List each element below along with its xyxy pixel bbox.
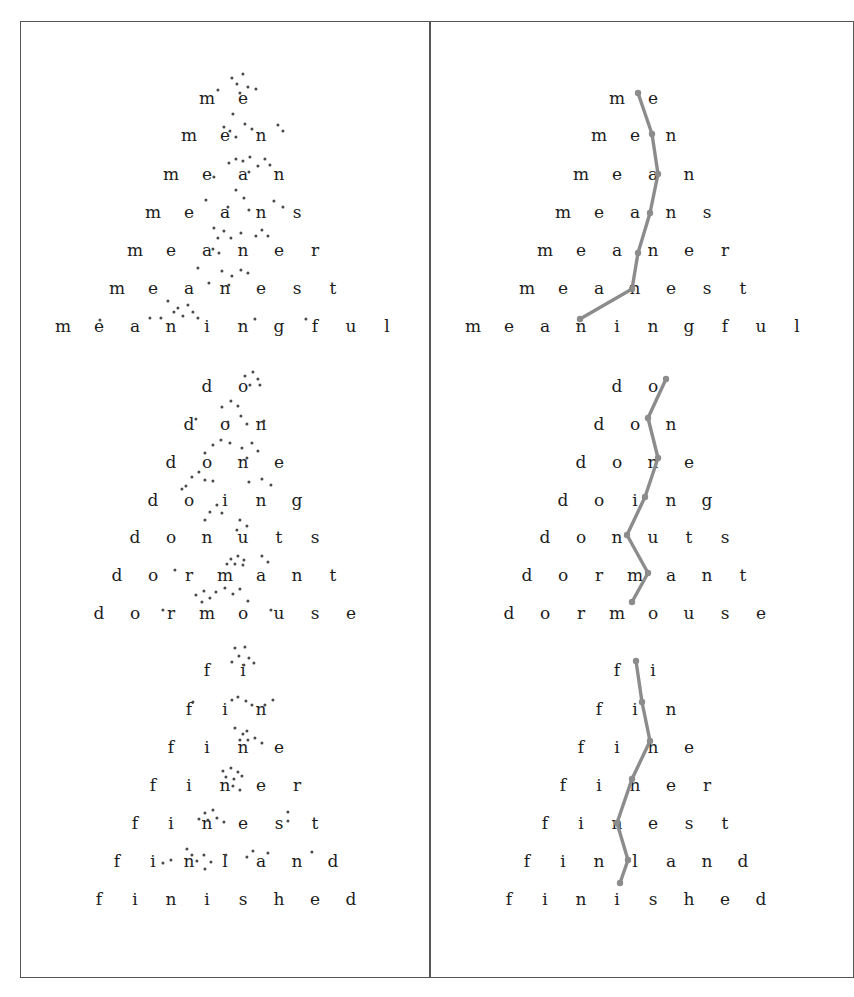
glyph: r (563, 605, 599, 622)
glyph: l (617, 853, 653, 870)
glyph: f (99, 853, 135, 870)
glyph: d (509, 567, 545, 584)
glyph: d (81, 605, 117, 622)
glyph: n (207, 280, 243, 297)
glyph: i (599, 891, 635, 908)
glyph: s (689, 204, 725, 221)
glyph: f (153, 739, 189, 756)
glyph: o (225, 378, 261, 395)
glyph: n (563, 318, 599, 335)
glyph: i (563, 815, 599, 832)
glyph: m (153, 166, 189, 183)
word-row-donuts-right: donuts (527, 529, 743, 546)
glyph: e (243, 777, 279, 794)
glyph: i (581, 777, 617, 794)
glyph: m (455, 318, 491, 335)
glyph: d (333, 891, 369, 908)
glyph: a (599, 242, 635, 259)
glyph: n (599, 529, 635, 546)
glyph: e (671, 454, 707, 471)
glyph: e (243, 280, 279, 297)
glyph: n (635, 454, 671, 471)
glyph: n (581, 853, 617, 870)
glyph: d (117, 529, 153, 546)
word-row-fi-right: fi (599, 662, 671, 679)
glyph: o (153, 529, 189, 546)
glyph: f (189, 662, 225, 679)
glyph: i (171, 777, 207, 794)
word-row-mean-right: mean (563, 166, 707, 183)
glyph: o (635, 378, 671, 395)
glyph: d (135, 492, 171, 509)
glyph: f (297, 318, 333, 335)
glyph: m (617, 567, 653, 584)
word-row-me-right: me (599, 90, 671, 107)
glyph: i (617, 492, 653, 509)
glyph: o (527, 605, 563, 622)
word-row-men-left: men (171, 127, 279, 144)
glyph: e (207, 127, 243, 144)
glyph: n (243, 204, 279, 221)
glyph: e (671, 739, 707, 756)
glyph: m (189, 90, 225, 107)
glyph: f (707, 318, 743, 335)
glyph: f (581, 701, 617, 718)
glyph: s (635, 891, 671, 908)
glyph: a (617, 204, 653, 221)
glyph: e (261, 739, 297, 756)
glyph: d (581, 416, 617, 433)
word-row-donuts-left: donuts (117, 529, 333, 546)
glyph: m (563, 166, 599, 183)
word-row-finer-right: finer (545, 777, 725, 794)
glyph: a (207, 204, 243, 221)
word-row-dormouse-left: dormouse (81, 605, 369, 622)
glyph: m (99, 280, 135, 297)
glyph: s (707, 529, 743, 546)
glyph: n (599, 815, 635, 832)
glyph: i (599, 739, 635, 756)
glyph: o (599, 454, 635, 471)
glyph: n (225, 242, 261, 259)
glyph: a (117, 318, 153, 335)
glyph: g (671, 318, 707, 335)
glyph: n (635, 739, 671, 756)
glyph: t (261, 529, 297, 546)
glyph: n (189, 529, 225, 546)
glyph: e (617, 127, 653, 144)
glyph: e (671, 242, 707, 259)
glyph: m (45, 318, 81, 335)
glyph: n (671, 166, 707, 183)
glyph: m (599, 90, 635, 107)
glyph: a (171, 280, 207, 297)
glyph: i (207, 701, 243, 718)
glyph: n (279, 567, 315, 584)
glyph: i (527, 891, 563, 908)
glyph: e (261, 242, 297, 259)
word-row-finished-right: finished (491, 891, 779, 908)
glyph: e (653, 280, 689, 297)
glyph: d (527, 529, 563, 546)
glyph: e (707, 891, 743, 908)
glyph: t (725, 567, 761, 584)
glyph: u (333, 318, 369, 335)
glyph: f (599, 662, 635, 679)
glyph: m (581, 127, 617, 144)
word-row-done-left: done (153, 454, 297, 471)
glyph: s (261, 815, 297, 832)
glyph: m (545, 204, 581, 221)
word-row-finland-right: finland (509, 853, 761, 870)
glyph: n (689, 853, 725, 870)
glyph: e (225, 815, 261, 832)
glyph: n (617, 280, 653, 297)
glyph: a (527, 318, 563, 335)
glyph: r (297, 242, 333, 259)
glyph: a (243, 853, 279, 870)
glyph: o (545, 567, 581, 584)
glyph: e (581, 204, 617, 221)
glyph: m (527, 242, 563, 259)
glyph: m (171, 127, 207, 144)
glyph: e (171, 204, 207, 221)
glyph: n (243, 127, 279, 144)
glyph: l (779, 318, 815, 335)
glyph: u (261, 605, 297, 622)
